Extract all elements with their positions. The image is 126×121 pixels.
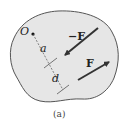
origin-label: O — [20, 25, 29, 38]
figure-caption: (a) — [53, 109, 65, 119]
force-neg-label: −F — [68, 30, 85, 43]
distance-d-label: d — [52, 72, 59, 85]
force-pos-label: F — [86, 57, 94, 70]
distance-a-label: a — [40, 42, 47, 55]
couple-diagram: O a d −F F (a) — [0, 0, 126, 121]
